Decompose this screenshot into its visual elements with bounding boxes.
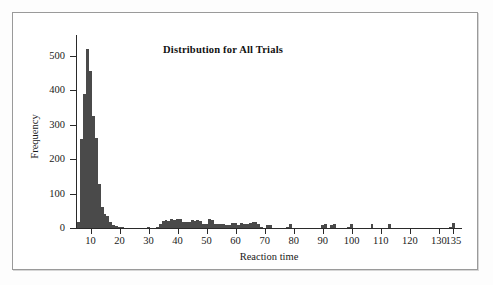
histogram-bar bbox=[371, 224, 374, 228]
histogram-bar bbox=[147, 227, 150, 228]
histogram-bars bbox=[13, 13, 477, 269]
histogram-bar bbox=[324, 224, 327, 228]
histogram-bar bbox=[388, 224, 391, 228]
histogram-bar bbox=[452, 223, 455, 228]
plot-area: Distribution for All Trials Frequency Re… bbox=[13, 13, 477, 269]
histogram-bar bbox=[260, 227, 263, 228]
histogram-bar bbox=[121, 227, 124, 228]
histogram-bar bbox=[269, 225, 272, 228]
histogram-bar bbox=[350, 224, 353, 228]
histogram-bar bbox=[333, 224, 336, 228]
histogram-bar bbox=[289, 224, 292, 228]
chart-page: Distribution for All Trials Frequency Re… bbox=[0, 0, 493, 285]
figure-frame: Distribution for All Trials Frequency Re… bbox=[12, 12, 478, 270]
